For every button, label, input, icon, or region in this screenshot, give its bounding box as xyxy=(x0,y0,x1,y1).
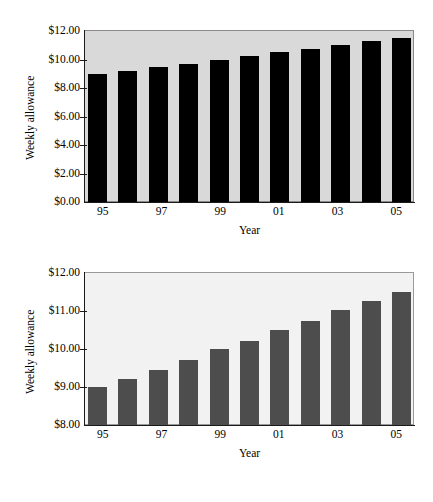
bar xyxy=(210,60,229,203)
y-axis-tick-mark xyxy=(80,174,87,175)
x-axis-tick-label: 97 xyxy=(149,206,173,218)
bar xyxy=(179,360,198,425)
y-axis-tick-mark xyxy=(80,145,87,146)
y-axis-tick-label: $11.00 xyxy=(49,305,80,317)
y-axis-tick-mark xyxy=(80,349,87,350)
bar xyxy=(331,310,350,425)
x-axis-title-bottom: Year xyxy=(84,447,415,459)
x-axis-tick-label: 05 xyxy=(384,429,408,441)
x-axis-tick-label: 95 xyxy=(91,429,115,441)
y-axis-title-bottom: Weekly allowance xyxy=(24,310,36,394)
bar xyxy=(210,349,229,425)
x-axis-tick-label: 99 xyxy=(208,206,232,218)
bar xyxy=(118,379,137,425)
x-axis-tick-label: 03 xyxy=(326,206,350,218)
y-axis-tick-label: $2.00 xyxy=(54,168,80,180)
y-axis-tick-label: $6.00 xyxy=(54,111,80,123)
x-axis-tick-label: 95 xyxy=(91,206,115,218)
bar xyxy=(149,67,168,202)
y-axis-tick-label: $8.00 xyxy=(54,419,80,431)
x-axis-tick-label: 01 xyxy=(267,206,291,218)
bar xyxy=(270,330,289,425)
x-axis-tick-label: 05 xyxy=(384,206,408,218)
y-axis-tick-mark xyxy=(80,387,87,388)
bar xyxy=(149,370,168,425)
bar xyxy=(392,292,411,425)
bar xyxy=(362,41,381,202)
y-axis-tick-mark xyxy=(80,311,87,312)
x-axis-tick-label: 03 xyxy=(326,429,350,441)
x-axis-line-bottom xyxy=(84,425,415,426)
y-axis-tick-mark xyxy=(80,88,87,89)
x-axis-ticklabels-bottom: 959799010305 xyxy=(85,429,414,445)
y-axis-tick-label: $12.00 xyxy=(48,25,80,37)
bar xyxy=(240,56,259,202)
bar xyxy=(240,341,259,425)
x-axis-line-top xyxy=(84,202,415,203)
y-axis-tick-mark xyxy=(80,117,87,118)
y-axis-tick-label: $10.00 xyxy=(48,54,80,66)
y-axis-tick-label: $10.00 xyxy=(48,343,80,355)
y-axis-tick-label: $4.00 xyxy=(54,139,80,151)
x-axis-tick-label: 97 xyxy=(149,429,173,441)
bar xyxy=(179,64,198,203)
bar xyxy=(301,49,320,202)
bar xyxy=(88,74,107,202)
bar xyxy=(362,301,381,425)
y-axis-tick-label: $8.00 xyxy=(54,82,80,94)
bar xyxy=(301,321,320,426)
x-axis-title-top: Year xyxy=(84,224,415,236)
y-axis-tick-label: $0.00 xyxy=(54,196,80,208)
bar xyxy=(88,387,107,425)
y-axis-tick-mark xyxy=(80,60,87,61)
x-axis-tick-label: 01 xyxy=(267,429,291,441)
bar xyxy=(392,38,411,202)
y-axis-tick-label: $9.00 xyxy=(54,381,80,393)
bar-chart-full-scale: $0.00$2.00$4.00$6.00$8.00$10.00$12.00 95… xyxy=(0,0,433,251)
bar xyxy=(270,52,289,202)
bar xyxy=(331,45,350,202)
x-axis-ticklabels-top: 959799010305 xyxy=(85,206,414,222)
bar xyxy=(118,71,137,202)
bar-chart-truncated-scale: $8.00$9.00$10.00$11.00$12.00 95979901030… xyxy=(0,251,433,502)
bar-series-bottom xyxy=(85,273,414,425)
y-axis-tick-label: $12.00 xyxy=(48,267,80,279)
bar-series-top xyxy=(85,31,414,202)
y-axis-title-top: Weekly allowance xyxy=(24,76,36,160)
x-axis-tick-label: 99 xyxy=(208,429,232,441)
